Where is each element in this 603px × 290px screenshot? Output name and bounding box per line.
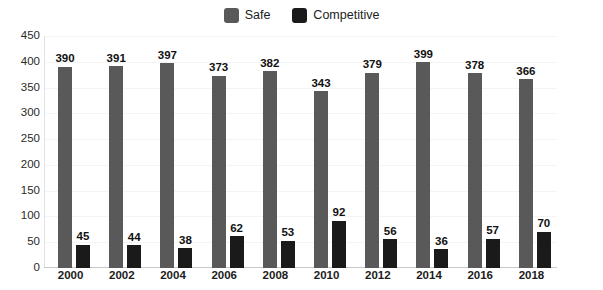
bar-value-label: 397 <box>158 50 177 62</box>
bar-group: 39144 <box>96 36 147 268</box>
y-axis-tick: 300 <box>0 108 40 120</box>
bar-group: 38253 <box>250 36 301 268</box>
x-axis-tick: 2000 <box>45 270 96 282</box>
x-axis-tick: 2002 <box>96 270 147 282</box>
bar-value-label: 56 <box>384 226 397 238</box>
bar-competitive[interactable]: 36 <box>434 249 448 268</box>
bar-value-label: 53 <box>281 227 294 239</box>
legend-item-competitive[interactable]: Competitive <box>292 8 379 23</box>
y-axis-tick: 250 <box>0 133 40 145</box>
bar-value-label: 92 <box>333 207 346 219</box>
bar-value-label: 62 <box>230 223 243 235</box>
bar-value-label: 373 <box>209 62 228 74</box>
bar-safe[interactable]: 391 <box>109 66 123 268</box>
x-axis-tick: 2010 <box>301 270 352 282</box>
bar-value-label: 390 <box>55 53 74 65</box>
y-axis-tick: 150 <box>0 185 40 197</box>
x-axis-tick: 2008 <box>250 270 301 282</box>
bar-safe[interactable]: 399 <box>416 62 430 268</box>
bar-safe[interactable]: 390 <box>58 67 72 268</box>
bar-value-label: 70 <box>537 218 550 230</box>
x-axis-tick: 2018 <box>506 270 557 282</box>
bar-safe[interactable]: 382 <box>263 71 277 268</box>
bar-value-label: 38 <box>179 235 192 247</box>
y-axis-tick: 450 <box>0 30 40 42</box>
bar-group: 37362 <box>199 36 250 268</box>
y-axis: 450400350300250200150100500 <box>0 36 40 268</box>
bar-value-label: 44 <box>128 232 141 244</box>
bar-value-label: 391 <box>107 53 126 65</box>
x-axis-tick: 2016 <box>455 270 506 282</box>
bar-safe[interactable]: 378 <box>468 73 482 268</box>
bar-competitive[interactable]: 53 <box>281 241 295 268</box>
bar-group: 37857 <box>455 36 506 268</box>
bar-competitive[interactable]: 70 <box>537 232 551 268</box>
bar-group: 34392 <box>301 36 352 268</box>
x-axis-tick: 2014 <box>403 270 454 282</box>
bar-value-label: 57 <box>486 225 499 237</box>
bar-competitive[interactable]: 92 <box>332 221 346 268</box>
y-axis-tick: 100 <box>0 211 40 223</box>
bar-value-label: 378 <box>465 60 484 72</box>
bar-group: 39045 <box>45 36 96 268</box>
bar-safe[interactable]: 373 <box>212 76 226 268</box>
bar-value-label: 379 <box>363 59 382 71</box>
legend-item-safe[interactable]: Safe <box>224 8 271 23</box>
bar-value-label: 399 <box>414 49 433 61</box>
legend-swatch-competitive <box>292 8 307 23</box>
plot-area: 3904539144397383736238253343923795639936… <box>44 36 557 268</box>
bar-value-label: 382 <box>260 58 279 70</box>
bar-competitive[interactable]: 56 <box>383 239 397 268</box>
bar-value-label: 45 <box>77 231 90 243</box>
bar-value-label: 366 <box>516 66 535 78</box>
bar-competitive[interactable]: 62 <box>230 236 244 268</box>
x-axis-tick: 2012 <box>352 270 403 282</box>
legend-swatch-safe <box>224 8 239 23</box>
bar-group: 39936 <box>403 36 454 268</box>
bar-competitive[interactable]: 57 <box>486 239 500 268</box>
x-axis: 2000200220042006200820102012201420162018 <box>45 270 557 282</box>
bar-chart: Safe Competitive 45040035030025020015010… <box>0 0 603 290</box>
chart-legend: Safe Competitive <box>0 4 603 26</box>
bar-value-label: 343 <box>311 78 330 90</box>
legend-label-competitive: Competitive <box>313 9 379 22</box>
y-axis-tick: 0 <box>0 262 40 274</box>
x-axis-tick: 2006 <box>199 270 250 282</box>
bar-group: 39738 <box>147 36 198 268</box>
x-axis-tick: 2004 <box>147 270 198 282</box>
y-axis-tick: 350 <box>0 82 40 94</box>
y-axis-tick: 50 <box>0 236 40 248</box>
bar-competitive[interactable]: 45 <box>76 245 90 268</box>
bar-group: 37956 <box>352 36 403 268</box>
bar-group: 36670 <box>506 36 557 268</box>
bar-competitive[interactable]: 44 <box>127 245 141 268</box>
bar-groups: 3904539144397383736238253343923795639936… <box>45 36 557 268</box>
bar-competitive[interactable]: 38 <box>178 248 192 268</box>
bar-safe[interactable]: 397 <box>160 63 174 268</box>
y-axis-tick: 400 <box>0 56 40 68</box>
bar-safe[interactable]: 379 <box>365 73 379 268</box>
y-axis-tick: 200 <box>0 159 40 171</box>
legend-label-safe: Safe <box>245 9 271 22</box>
bar-safe[interactable]: 366 <box>519 79 533 268</box>
bar-safe[interactable]: 343 <box>314 91 328 268</box>
bar-value-label: 36 <box>435 236 448 248</box>
